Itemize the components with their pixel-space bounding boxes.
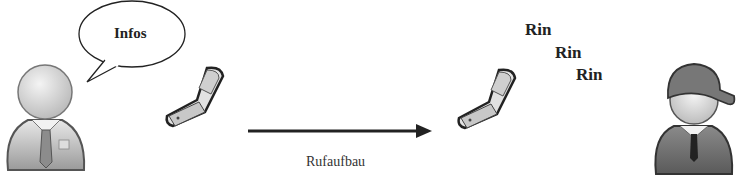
ringing-phone-icon [455,64,523,134]
ring-text-1: Rin [525,20,551,40]
callee-person-icon [650,58,736,178]
call-setup-label: Rufaufbau [306,154,365,170]
caller-person-icon [2,62,88,172]
call-setup-arrow [246,120,436,140]
mobile-phone-icon [163,62,231,132]
ring-text-3: Rin [576,65,602,85]
ring-text-2: Rin [555,43,581,63]
speech-bubble-text: Infos [114,25,147,42]
